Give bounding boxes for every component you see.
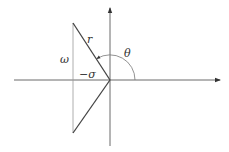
label-r: r (87, 33, 93, 46)
s-plane-diagram: r θ ω −σ (0, 0, 229, 152)
r-vector-lower (73, 80, 110, 133)
label-neg-sigma: −σ (79, 68, 96, 81)
label-theta: θ (124, 47, 131, 60)
label-omega: ω (60, 53, 69, 66)
